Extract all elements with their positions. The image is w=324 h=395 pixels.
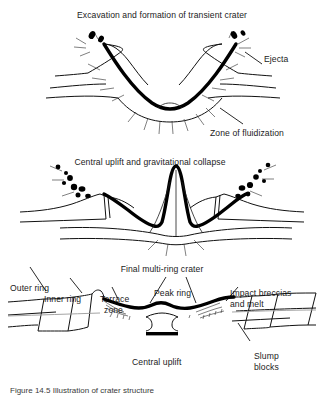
slump-blocks-label-line1: Slump bbox=[254, 351, 279, 361]
strata-right bbox=[208, 73, 280, 98]
terrace-fault-right bbox=[244, 296, 252, 329]
slump-blocks-label-line2: blocks bbox=[254, 362, 279, 372]
central-uplift-bracket-left bbox=[146, 317, 152, 331]
terrace-block-right-top bbox=[190, 197, 216, 208]
fluidization-ticks bbox=[128, 108, 215, 134]
figure-caption: Figure 14.5 Illustration of crater struc… bbox=[10, 386, 320, 395]
deep-horizon-lower-stage2 bbox=[60, 238, 292, 244]
block-top-left-1 bbox=[44, 297, 74, 299]
ground-surface-far-left bbox=[8, 299, 44, 302]
transient-crater-melt-liner bbox=[104, 44, 236, 109]
block-top-left-2 bbox=[74, 294, 92, 297]
slump-blocks-leader-line bbox=[238, 323, 250, 341]
ejecta-ray-ticks-left-stage2 bbox=[50, 166, 74, 196]
block-base-right-1 bbox=[244, 327, 270, 329]
ejecta-clumps-right-stage2 bbox=[235, 163, 270, 199]
block-base-left-2 bbox=[68, 327, 88, 331]
central-uplift-label: Central uplift bbox=[132, 357, 181, 367]
outer-ring-leader-line bbox=[30, 267, 46, 291]
zone-of-fluidization-label: Zone of fluidization bbox=[210, 128, 284, 138]
strata-left bbox=[46, 73, 118, 98]
inner-ring-crest-left bbox=[92, 290, 104, 299]
peak-ring-leader-line-right bbox=[186, 277, 196, 303]
horizon-right-stage2 bbox=[218, 219, 304, 222]
terrace-block-left-inner-face bbox=[104, 195, 106, 219]
central-uplift-core bbox=[146, 332, 178, 335]
peak-ring-leader-line-left bbox=[150, 277, 166, 303]
zone-of-fluidization-leader-line bbox=[220, 108, 243, 124]
ejecta-clumps-left-stage2 bbox=[56, 165, 91, 199]
block-top-right-1 bbox=[252, 294, 278, 296]
overturned-flap-right-upper bbox=[179, 44, 222, 85]
melt-liner-stage2 bbox=[104, 166, 246, 226]
terrace-fault-left bbox=[88, 294, 92, 327]
horizon-left-stage2 bbox=[20, 219, 106, 222]
block-base-right-2 bbox=[270, 325, 308, 327]
base-horizon-right-2 bbox=[232, 318, 290, 321]
central-uplift-bracket-right bbox=[172, 317, 178, 331]
base-horizon-left-2 bbox=[8, 325, 38, 327]
stage-1-cross-section bbox=[0, 0, 324, 140]
ejecta-clump-left bbox=[87, 30, 105, 44]
ejecta-clump-right bbox=[230, 29, 247, 40]
central-uplift-bracket-top bbox=[146, 313, 178, 317]
ejecta-leader-line bbox=[245, 52, 262, 64]
melt-sheet-crater-floor bbox=[104, 297, 234, 308]
stage-2-cross-section bbox=[0, 140, 324, 260]
block-top-right-2 bbox=[278, 293, 316, 294]
outer-ring-fault-right bbox=[308, 293, 316, 325]
ejecta-label: Ejecta bbox=[264, 54, 288, 64]
inner-ring-leader-line bbox=[70, 278, 82, 293]
block-top-right-0 bbox=[234, 296, 252, 297]
terrace-zone-leader-line bbox=[112, 287, 118, 299]
